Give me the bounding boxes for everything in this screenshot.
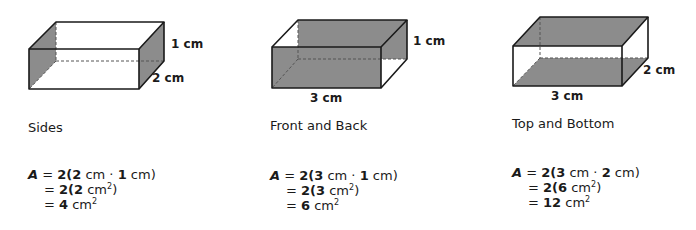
formula-line-2: = 2(2 cm2) bbox=[28, 182, 156, 197]
shaded-bottom-face bbox=[513, 58, 648, 86]
formula-front-back: A = 2(3 cm · 1 cm) = 2(3 cm2) = 6 cm2 bbox=[270, 168, 398, 213]
prism-front-back bbox=[272, 20, 407, 88]
caption-front-back: Front and Back bbox=[270, 118, 367, 133]
shaded-front-face bbox=[272, 47, 381, 88]
formula-line-1: A = 2(3 cm · 2 cm) bbox=[512, 165, 640, 180]
formula-line-2: = 2(6 cm2) bbox=[512, 180, 640, 195]
formula-line-3: = 4 cm2 bbox=[28, 197, 156, 212]
formula-top-bottom: A = 2(3 cm · 2 cm) = 2(6 cm2) = 12 cm2 bbox=[512, 165, 640, 210]
depth-label: 2 cm bbox=[643, 63, 675, 77]
height-label: 1 cm bbox=[171, 37, 203, 51]
shaded-left-side bbox=[29, 22, 56, 89]
caption-sides: Sides bbox=[28, 120, 63, 135]
height-label: 1 cm bbox=[413, 34, 445, 48]
formula-line-1: A = 2(2 cm · 1 cm) bbox=[28, 167, 156, 182]
formula-line-1: A = 2(3 cm · 1 cm) bbox=[270, 168, 398, 183]
prism-top-bottom bbox=[513, 17, 648, 86]
formula-line-3: = 6 cm2 bbox=[270, 198, 398, 213]
formula-line-3: = 12 cm2 bbox=[512, 195, 640, 210]
prism-sides bbox=[29, 22, 164, 89]
width-label: 3 cm bbox=[310, 91, 342, 105]
width-label: 3 cm bbox=[551, 89, 583, 103]
formula-line-2: = 2(3 cm2) bbox=[270, 183, 398, 198]
formula-sides: A = 2(2 cm · 1 cm) = 2(2 cm2) = 4 cm2 bbox=[28, 167, 156, 212]
depth-label: 2 cm bbox=[152, 71, 184, 85]
caption-top-bottom: Top and Bottom bbox=[512, 116, 614, 131]
shaded-top-face bbox=[513, 17, 648, 46]
